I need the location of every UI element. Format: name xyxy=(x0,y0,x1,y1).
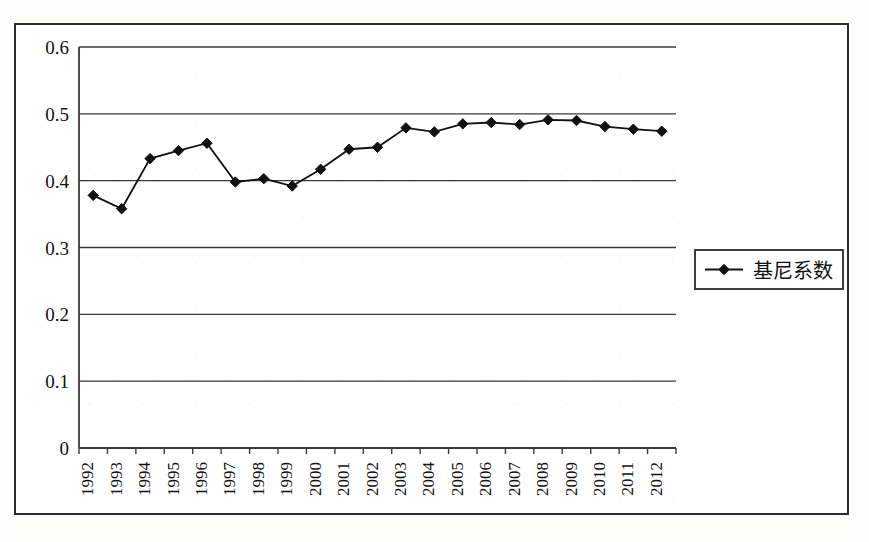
data-point-marker xyxy=(259,173,269,183)
x-axis-tick-label: 1997 xyxy=(220,462,239,497)
x-axis-tick-label: 1999 xyxy=(277,462,296,496)
data-point-marker xyxy=(571,115,581,125)
x-axis-tick-label: 2012 xyxy=(647,462,666,496)
x-axis-tick-label: 2005 xyxy=(448,462,467,496)
data-point-marker xyxy=(429,127,439,137)
data-point-marker xyxy=(372,142,382,152)
data-point-marker xyxy=(657,126,667,136)
x-axis-tick-label: 1992 xyxy=(78,462,97,496)
x-axis: 1992199319941995199619971998199920002001… xyxy=(78,448,676,496)
x-axis-tick-label: 1993 xyxy=(107,462,126,496)
y-axis-tick-label: 0.6 xyxy=(45,37,69,58)
data-point-marker xyxy=(600,121,610,131)
x-axis-tick-label: 2008 xyxy=(533,462,552,496)
x-axis-tick-label: 2002 xyxy=(363,462,382,496)
data-point-marker xyxy=(628,124,638,134)
y-axis-tick-label: 0.1 xyxy=(45,371,69,392)
y-axis-tick-label: 0.2 xyxy=(45,304,69,325)
data-point-marker xyxy=(116,204,126,214)
data-point-marker xyxy=(145,153,155,163)
x-axis-tick-label: 1995 xyxy=(164,462,183,496)
y-axis-tick-label: 0 xyxy=(60,438,70,459)
x-axis-tick-label: 2009 xyxy=(562,462,581,496)
data-series-group xyxy=(88,115,667,214)
y-axis: 0.60.50.40.30.20.10 xyxy=(45,37,79,459)
x-axis-tick-label: 1994 xyxy=(135,462,154,497)
x-axis-tick-label: 2006 xyxy=(476,462,495,496)
x-axis-tick-label: 2011 xyxy=(618,462,637,495)
x-axis-tick-label: 2010 xyxy=(590,462,609,496)
y-axis-tick-label: 0.3 xyxy=(45,238,69,259)
x-axis-tick-label: 2004 xyxy=(419,462,438,497)
x-axis-tick-label: 1996 xyxy=(192,462,211,496)
x-axis-tick-label: 2001 xyxy=(334,462,353,496)
data-point-marker xyxy=(486,117,496,127)
data-point-marker xyxy=(514,119,524,129)
y-axis-tick-label: 0.5 xyxy=(45,104,69,125)
x-axis-tick-label: 1998 xyxy=(249,462,268,496)
x-axis-tick-label: 2003 xyxy=(391,462,410,496)
x-axis-tick-label: 2007 xyxy=(505,462,524,497)
series-line xyxy=(93,120,662,209)
data-point-marker xyxy=(88,190,98,200)
data-point-marker xyxy=(173,145,183,155)
data-point-marker xyxy=(401,123,411,133)
legend-entry-label: 基尼系数 xyxy=(753,259,833,283)
data-point-marker xyxy=(543,115,553,125)
figure-root: 0.60.50.40.30.20.10 19921993199419951996… xyxy=(0,0,869,542)
chart-legend: 基尼系数 xyxy=(695,250,843,289)
plot-area xyxy=(79,47,676,448)
gini-coefficient-line-chart: 0.60.50.40.30.20.10 19921993199419951996… xyxy=(0,0,869,542)
x-axis-tick-label: 2000 xyxy=(306,462,325,496)
data-point-marker xyxy=(458,119,468,129)
y-axis-tick-label: 0.4 xyxy=(45,171,69,192)
data-point-marker xyxy=(287,181,297,191)
